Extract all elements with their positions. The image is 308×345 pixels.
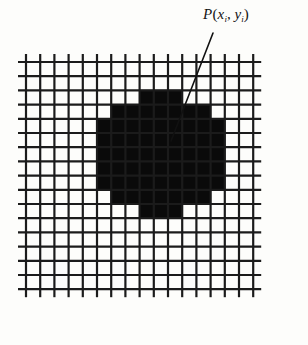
pixel-cell: [167, 90, 182, 105]
pixel-cell: [139, 175, 154, 190]
pixel-cell: [111, 189, 126, 204]
pixel-cell: [167, 175, 182, 190]
pixel-cell: [111, 175, 126, 190]
pixel-cell: [182, 132, 197, 147]
point-label: P(xi, yi): [203, 6, 249, 24]
pixel-cell: [196, 161, 211, 176]
pixel-cell: [182, 189, 197, 204]
pixel-cell: [125, 175, 140, 190]
close-paren: ): [244, 6, 249, 22]
pixel-cell: [196, 104, 211, 119]
pixel-grid: [18, 54, 261, 297]
pixel-cell: [111, 132, 126, 147]
pixel-cell: [210, 118, 225, 133]
pixel-cell: [182, 175, 197, 190]
pixel-cell: [111, 161, 126, 176]
pixel-cell: [125, 189, 140, 204]
pixel-cell: [182, 147, 197, 162]
pixel-cell: [139, 132, 154, 147]
point-symbol: P: [203, 6, 212, 22]
pixel-cell: [125, 161, 140, 176]
pixel-cell: [96, 118, 111, 133]
pixel-cell: [125, 104, 140, 119]
pixel-cell: [139, 203, 154, 218]
pixel-cell: [96, 132, 111, 147]
pixel-cell: [111, 147, 126, 162]
pixel-cell: [210, 147, 225, 162]
pixel-cell: [196, 147, 211, 162]
pixel-cell: [139, 118, 154, 133]
figure-container: P(xi, yi): [0, 0, 308, 345]
pixel-cell: [196, 189, 211, 204]
pixel-cell: [153, 161, 168, 176]
pixel-cell: [153, 175, 168, 190]
pixel-cell: [153, 203, 168, 218]
pixel-cell: [210, 161, 225, 176]
pixel-cell: [153, 132, 168, 147]
pixel-cell: [139, 90, 154, 105]
pixel-cell: [139, 147, 154, 162]
digitized-region: [96, 90, 225, 219]
pixel-cell: [182, 118, 197, 133]
pixel-cell: [167, 161, 182, 176]
pixel-cell: [210, 175, 225, 190]
pixel-cell: [139, 189, 154, 204]
pixel-cell: [139, 161, 154, 176]
pixel-cell: [96, 175, 111, 190]
pixel-cell: [167, 147, 182, 162]
pixel-cell: [125, 147, 140, 162]
pixel-cell: [210, 132, 225, 147]
pixel-cell: [167, 189, 182, 204]
pixel-cell: [111, 118, 126, 133]
pixel-cell: [153, 104, 168, 119]
pixel-cell: [153, 90, 168, 105]
pixel-cell: [96, 147, 111, 162]
pixel-cell: [125, 132, 140, 147]
pixel-cell: [196, 118, 211, 133]
pixel-cell: [182, 161, 197, 176]
pixel-cell: [153, 147, 168, 162]
pixel-grid-figure: [0, 0, 308, 345]
pixel-cell: [153, 189, 168, 204]
pixel-cell: [139, 104, 154, 119]
pixel-cell: [111, 104, 126, 119]
pixel-cell: [167, 203, 182, 218]
pixel-cell: [167, 132, 182, 147]
pixel-cell: [196, 132, 211, 147]
pixel-cell: [153, 118, 168, 133]
pixel-cell: [196, 175, 211, 190]
pixel-cell: [96, 161, 111, 176]
pixel-cell: [125, 118, 140, 133]
